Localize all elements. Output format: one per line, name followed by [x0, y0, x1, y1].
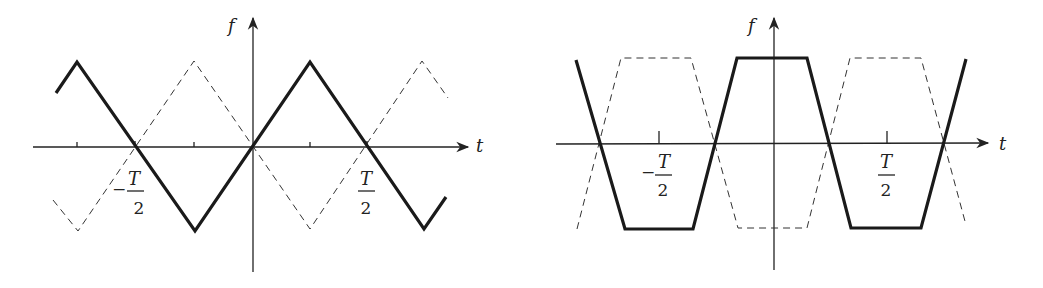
t-axis [556, 143, 988, 144]
denominator: 2 [361, 198, 372, 218]
numerator: T [880, 151, 894, 172]
numerator: T [360, 168, 374, 189]
denominator: 2 [658, 180, 669, 200]
minus-sign: − [641, 162, 655, 182]
t-axis-label: t [476, 135, 484, 156]
numerator: T [658, 151, 672, 172]
numerator: T [128, 168, 142, 189]
f-axis-label: f [746, 15, 758, 36]
tick-label-half-period: T 2 [358, 168, 375, 218]
denominator: 2 [134, 198, 145, 218]
triangle-wave-figure: f t − T 2 T 2 [33, 15, 484, 272]
tick-label-half-period: T 2 [878, 151, 895, 200]
tick-label-minus-half-period: − T 2 [641, 151, 672, 200]
trapezoid-wave-figure: f t − T 2 T 2 [556, 15, 1007, 270]
t-axis-label: t [999, 133, 1007, 154]
tick-label-minus-half-period: − T 2 [112, 168, 144, 218]
minus-sign: − [112, 179, 126, 199]
f-axis-label: f [226, 15, 238, 36]
denominator: 2 [881, 180, 892, 200]
figure-canvas: f t − T 2 T 2 f t − T 2 T [0, 0, 1043, 288]
dashed-triangle-series [53, 61, 448, 231]
